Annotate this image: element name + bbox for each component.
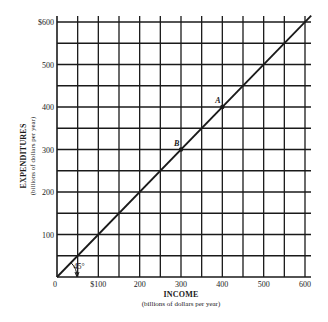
point-b	[179, 147, 183, 151]
x-tick-label: $100	[90, 280, 106, 289]
x-tick-label: 200	[134, 280, 146, 289]
chart: 0$100200300400500600 100200300400500$600…	[0, 0, 328, 322]
y-tick-label: 300	[42, 146, 54, 155]
angle-annotation: 45°	[71, 262, 85, 278]
angle-label: 45°	[74, 262, 85, 271]
point-a	[220, 105, 224, 109]
y-tick-label: $600	[38, 18, 54, 27]
line-45-degree	[57, 16, 311, 277]
x-axis-title: INCOME	[164, 290, 199, 299]
y-axis-ticks: 100200300400500$600	[38, 18, 54, 240]
y-tick-label: 500	[42, 61, 54, 70]
x-tick-label: 600	[299, 280, 311, 289]
x-axis-subtitle: (billions of dollars per year)	[142, 300, 221, 308]
y-axis-title: EXPENDITURES	[19, 123, 28, 188]
y-axis-subtitle: (billions of dollars per year)	[29, 116, 37, 195]
x-tick-label: 500	[258, 280, 270, 289]
point-label-a: A	[214, 96, 221, 105]
x-tick-label: 300	[175, 280, 187, 289]
y-tick-label: 200	[42, 188, 54, 197]
data-series	[57, 16, 311, 277]
y-tick-label: 100	[42, 231, 54, 240]
x-tick-label: 400	[216, 280, 228, 289]
point-label-b: B	[173, 139, 180, 148]
x-tick-label: 0	[53, 280, 57, 289]
x-axis-ticks: 0$100200300400500600	[53, 280, 311, 289]
y-tick-label: 400	[42, 103, 54, 112]
